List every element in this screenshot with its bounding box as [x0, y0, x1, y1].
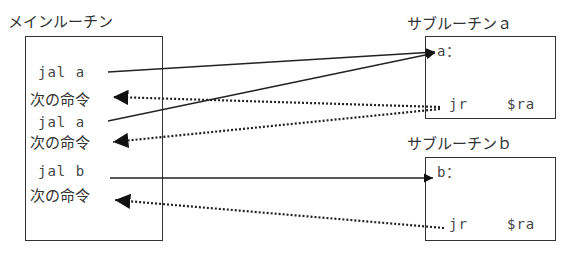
call-arrow-1: [108, 52, 435, 72]
call-arrow-2: [108, 53, 435, 121]
call-return-arrows: [0, 0, 569, 255]
return-arrow-1: [113, 97, 440, 107]
return-arrow-2: [113, 109, 440, 142]
return-arrow-3: [115, 200, 444, 228]
